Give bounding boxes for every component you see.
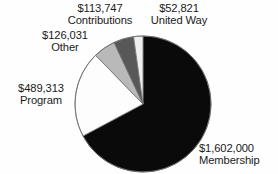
slice-label-program: $489,313 Program bbox=[2, 82, 80, 107]
slice-label-membership: $1,602,000 Membership bbox=[199, 142, 278, 167]
contributions-value: $113,747 bbox=[57, 2, 143, 14]
pie-chart-figure: $113,747 Contributions $52,821 United Wa… bbox=[0, 0, 278, 174]
contributions-category: Contributions bbox=[57, 14, 143, 26]
slice-label-contributions: $113,747 Contributions bbox=[57, 2, 143, 27]
pie-slices bbox=[75, 36, 211, 172]
program-value: $489,313 bbox=[2, 82, 80, 94]
other-category: Other bbox=[22, 41, 108, 53]
membership-value: $1,602,000 bbox=[199, 142, 278, 154]
membership-category: Membership bbox=[199, 154, 278, 166]
united-way-value: $52,821 bbox=[141, 2, 217, 14]
other-value: $126,031 bbox=[22, 29, 108, 41]
slice-label-other: $126,031 Other bbox=[22, 29, 108, 54]
program-category: Program bbox=[2, 94, 80, 106]
united-way-category: United Way bbox=[141, 14, 217, 26]
slice-label-united-way: $52,821 United Way bbox=[141, 2, 217, 27]
